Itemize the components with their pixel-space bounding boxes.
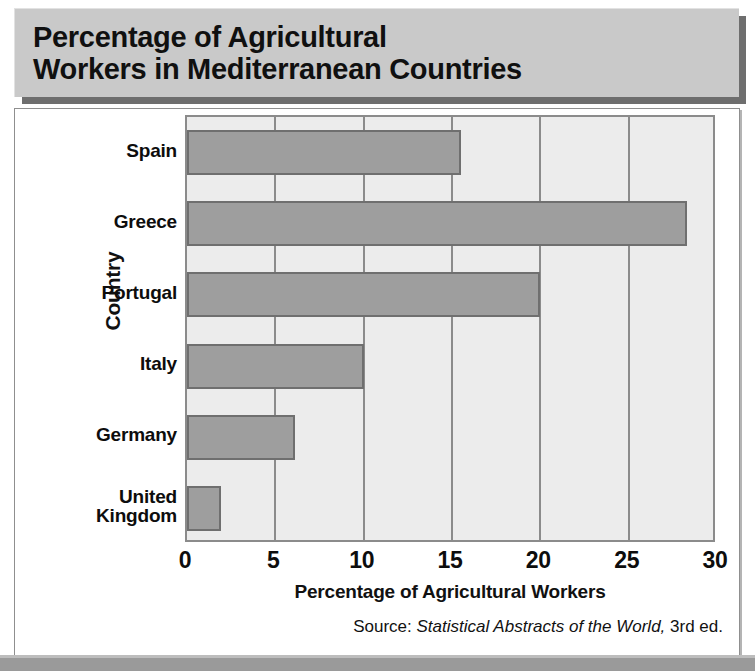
- bar-chart: Country SpainGreecePortugalItalyGermanyU…: [15, 109, 741, 657]
- y-axis-tick-label: UnitedKingdom: [55, 471, 183, 542]
- title-line-2: Workers in Mediterranean Countries: [33, 53, 522, 85]
- x-axis-tick-label: 15: [438, 547, 463, 574]
- y-axis-tick-labels: SpainGreecePortugalItalyGermanyUnitedKin…: [55, 115, 183, 542]
- title-plate: Percentage of Agricultural Workers in Me…: [14, 8, 739, 97]
- page-title: Percentage of Agricultural Workers in Me…: [15, 21, 522, 86]
- source-note: Source: Statistical Abstracts of the Wor…: [353, 617, 723, 637]
- page-bottom-band-highlight: [0, 655, 755, 658]
- x-axis-tick-label: 10: [349, 547, 374, 574]
- x-axis-tick-label: 30: [703, 547, 728, 574]
- x-axis-tick-label: 5: [267, 547, 280, 574]
- source-work-title: Statistical Abstracts of the World,: [417, 617, 666, 636]
- source-edition: 3rd ed.: [670, 617, 723, 636]
- bar-row: [187, 259, 713, 330]
- y-axis-tick-label: Portugal: [55, 257, 183, 328]
- x-axis-tick-label: 25: [614, 547, 639, 574]
- title-line-1: Percentage of Agricultural: [33, 21, 387, 53]
- bar-row: [187, 117, 713, 188]
- bar[interactable]: [187, 486, 221, 531]
- bar[interactable]: [187, 201, 687, 246]
- y-axis-tick-label: Germany: [55, 400, 183, 471]
- bar-row: [187, 188, 713, 259]
- bar-row: [187, 473, 713, 544]
- bar[interactable]: [187, 130, 461, 175]
- y-axis-tick-label: Greece: [55, 186, 183, 257]
- x-axis-tick-label: 20: [526, 547, 551, 574]
- source-prefix: Source:: [353, 617, 412, 636]
- y-axis-tick-label: Spain: [55, 115, 183, 186]
- bar[interactable]: [187, 344, 364, 389]
- y-axis-tick-label: Italy: [55, 329, 183, 400]
- plot-inner: [187, 117, 713, 540]
- bar[interactable]: [187, 415, 295, 460]
- chart-page: Percentage of Agricultural Workers in Me…: [0, 0, 755, 671]
- plot-area: [185, 115, 715, 542]
- bar-row: [187, 331, 713, 402]
- x-axis-tick-label: 0: [179, 547, 192, 574]
- x-axis-tick-labels: 051015202530: [185, 547, 715, 577]
- bar[interactable]: [187, 272, 540, 317]
- bar-row: [187, 402, 713, 473]
- x-axis-title: Percentage of Agricultural Workers: [185, 581, 715, 603]
- content-panel: Country SpainGreecePortugalItalyGermanyU…: [14, 108, 740, 656]
